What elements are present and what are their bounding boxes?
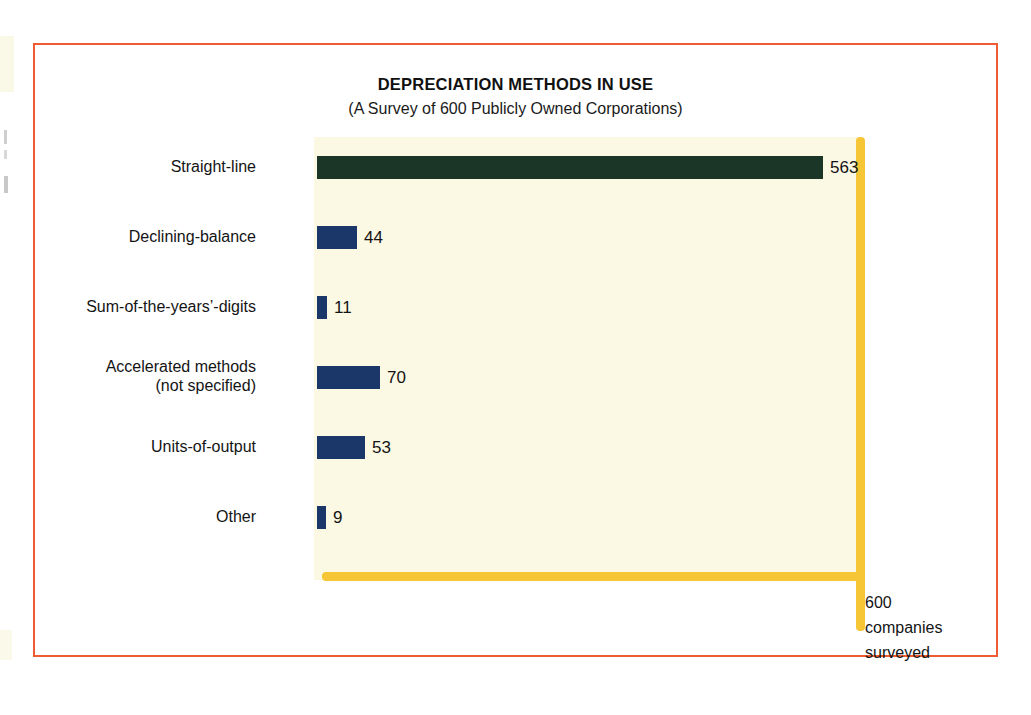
- bar-row: Accelerated methods(not specified)70: [35, 360, 996, 394]
- bar-row: Other9: [35, 500, 996, 534]
- bar: [317, 436, 365, 459]
- bar-row: Declining-balance44: [35, 220, 996, 254]
- page-edge-artifact: [4, 130, 7, 144]
- page-edge-artifact: [0, 36, 14, 92]
- bar-value-label: 53: [372, 436, 391, 459]
- bar-row: Straight-line563: [35, 150, 996, 184]
- bar: [317, 506, 326, 529]
- bar-row: Units-of-output53: [35, 430, 996, 464]
- axis-note-line-2: companies: [865, 615, 942, 640]
- bar-category-label: Declining-balance: [0, 227, 256, 246]
- bar: [317, 296, 327, 319]
- bar: [317, 156, 823, 179]
- bar-value-label: 44: [364, 226, 383, 249]
- bar-category-label: Units-of-output: [0, 437, 256, 456]
- bar-category-label: Other: [0, 507, 256, 526]
- chart-subtitle: (A Survey of 600 Publicly Owned Corporat…: [35, 100, 996, 118]
- bar-value-label: 9: [333, 506, 342, 529]
- chart-title: DEPRECIATION METHODS IN USE: [35, 75, 996, 94]
- axis-note-line-1: 600: [865, 590, 942, 615]
- bar-row: Sum-of-the-years’-digits11: [35, 290, 996, 324]
- bar-value-label: 11: [334, 296, 352, 319]
- chart-figure-frame: DEPRECIATION METHODS IN USE (A Survey of…: [33, 43, 998, 657]
- bar-value-label: 563: [830, 156, 858, 179]
- axis-line-horizontal: [322, 572, 865, 581]
- bar-category-label: Accelerated methods(not specified): [0, 357, 256, 395]
- bar-value-label: 70: [387, 366, 406, 389]
- page-edge-artifact: [0, 630, 12, 660]
- page-edge-artifact: [4, 176, 8, 193]
- bar: [317, 366, 380, 389]
- axis-note-line-3: surveyed: [865, 640, 942, 665]
- axis-note: 600 companies surveyed: [865, 590, 942, 665]
- bar: [317, 226, 357, 249]
- bar-category-label: Sum-of-the-years’-digits: [0, 297, 256, 316]
- bar-category-label: Straight-line: [0, 157, 256, 176]
